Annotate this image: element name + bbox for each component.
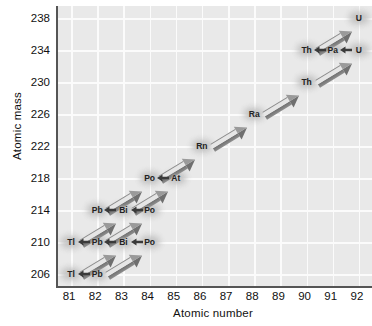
x-tick-81: 81: [57, 290, 81, 302]
beta-decay-arrow: [131, 206, 143, 215]
nuclide-Bi-210: Bi: [117, 236, 130, 248]
nuclide-Rn-222: Rn: [194, 140, 209, 152]
beta-decay-arrow: [157, 174, 169, 183]
nuclide-Po-214: Po: [142, 204, 157, 216]
nuclide-Ra-226: Ra: [247, 108, 262, 120]
beta-decay-arrow: [340, 46, 352, 55]
x-tick-85: 85: [162, 290, 186, 302]
gridline-horizontal: [58, 18, 372, 20]
nuclide-Th-234: Th: [299, 44, 313, 56]
gridline-horizontal: [58, 114, 372, 116]
nuclide-Po-218: Po: [142, 172, 157, 184]
beta-decay-arrow: [314, 46, 326, 55]
nuclide-U-234: U: [354, 44, 364, 56]
x-tick-90: 90: [293, 290, 317, 302]
y-tick-222: 222: [8, 140, 50, 152]
x-tick-91: 91: [319, 290, 343, 302]
nuclide-Pa-234: Pa: [326, 44, 340, 56]
x-tick-87: 87: [214, 290, 238, 302]
nuclide-Po-210: Po: [142, 236, 157, 248]
x-tick-83: 83: [109, 290, 133, 302]
y-tick-238: 238: [8, 12, 50, 24]
nuclide-Tl-206: Tl: [65, 268, 77, 280]
nuclide-Pb-210: Pb: [90, 236, 105, 248]
y-tick-218: 218: [8, 172, 50, 184]
beta-decay-arrow: [104, 238, 116, 247]
y-tick-206: 206: [8, 268, 50, 280]
x-axis-title: Atomic number: [56, 307, 370, 319]
nuclide-Tl-210: Tl: [65, 236, 77, 248]
y-tick-230: 230: [8, 76, 50, 88]
plot-area: UThPaUThRaRnPoAtPbBiPoTlPbBiPoTlPb: [56, 6, 372, 288]
beta-decay-arrow: [104, 206, 116, 215]
x-tick-89: 89: [266, 290, 290, 302]
nuclide-U-238: U: [354, 12, 364, 24]
x-tick-84: 84: [136, 290, 160, 302]
nuclide-Pb-206: Pb: [90, 268, 105, 280]
y-tick-226: 226: [8, 108, 50, 120]
y-tick-210: 210: [8, 236, 50, 248]
x-tick-92: 92: [345, 290, 369, 302]
y-tick-214: 214: [8, 204, 50, 216]
nuclide-Pb-214: Pb: [90, 204, 105, 216]
y-tick-234: 234: [8, 44, 50, 56]
nuclide-At-218: At: [169, 172, 182, 184]
x-tick-88: 88: [240, 290, 264, 302]
x-tick-82: 82: [83, 290, 107, 302]
beta-decay-arrow: [78, 270, 90, 279]
x-tick-86: 86: [188, 290, 212, 302]
nuclide-Th-230: Th: [299, 76, 313, 88]
gridline-horizontal: [58, 178, 372, 180]
nuclide-Bi-214: Bi: [117, 204, 130, 216]
beta-decay-arrow: [78, 238, 90, 247]
beta-decay-arrow: [131, 238, 143, 247]
